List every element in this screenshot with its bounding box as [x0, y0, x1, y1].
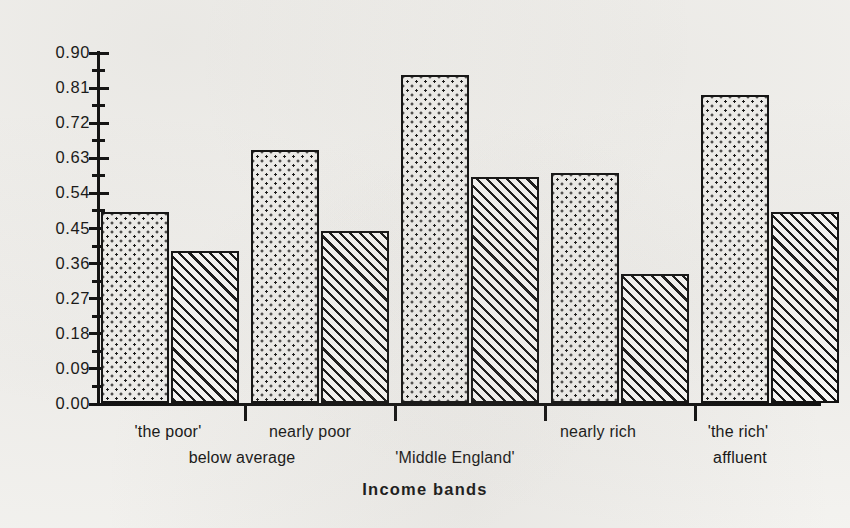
y-axis-tick-label: 0.36	[28, 255, 90, 272]
y-tick-minor	[92, 174, 105, 177]
x-axis-line	[97, 403, 821, 406]
bar-dotted	[251, 150, 319, 404]
bar-dotted	[101, 212, 169, 403]
x-axis-group-label: 'Middle England'	[395, 450, 515, 466]
bar-dotted	[401, 75, 469, 403]
y-axis-tick-label: 0.18	[28, 325, 90, 342]
bar-hatched	[471, 177, 539, 403]
y-axis-tick-label: 0.72	[28, 114, 90, 131]
x-axis-title: Income bands	[0, 480, 850, 499]
x-axis-group-separator	[244, 403, 247, 421]
x-axis-group-separator	[394, 403, 397, 421]
y-axis-tick-label: 0.45	[28, 220, 90, 237]
y-axis-tick-label: 0.54	[28, 184, 90, 201]
x-axis-category-label: nearly poor	[269, 424, 351, 440]
x-axis-group-label: below average	[189, 450, 296, 466]
y-tick-minor	[92, 69, 105, 72]
bar-hatched	[321, 231, 389, 403]
y-axis-tick-label: 0.09	[28, 360, 90, 377]
x-axis-group-separator	[694, 403, 697, 421]
y-tick-major	[89, 52, 109, 55]
x-axis-category-label: nearly rich	[560, 424, 636, 440]
bar-dotted	[701, 95, 769, 403]
bar-dotted	[551, 173, 619, 403]
y-tick-minor	[92, 139, 105, 142]
y-axis-tick-label: 0.63	[28, 149, 90, 166]
bar-hatched	[771, 212, 839, 403]
y-tick-major	[89, 87, 109, 90]
bar-chart: 0.900.810.720.630.540.450.360.270.180.09…	[0, 0, 850, 528]
y-axis-tick-label: 0.90	[28, 44, 90, 61]
x-axis-category-label: 'the poor'	[135, 424, 202, 440]
x-axis-group-label: affluent	[713, 450, 767, 466]
y-axis-tick-label: 0.81	[28, 79, 90, 96]
x-axis-title-text: Income bands	[362, 480, 487, 499]
bar-hatched	[621, 274, 689, 403]
bar-hatched	[171, 251, 239, 403]
y-tick-major	[89, 157, 109, 160]
y-axis-tick-label: 0.27	[28, 290, 90, 307]
x-axis-group-separator	[544, 403, 547, 421]
y-axis-tick-label: 0.00	[28, 395, 90, 412]
x-axis-category-label: 'the rich'	[708, 424, 769, 440]
y-tick-major	[89, 122, 109, 125]
y-tick-minor	[92, 104, 105, 107]
y-tick-major	[89, 192, 109, 195]
